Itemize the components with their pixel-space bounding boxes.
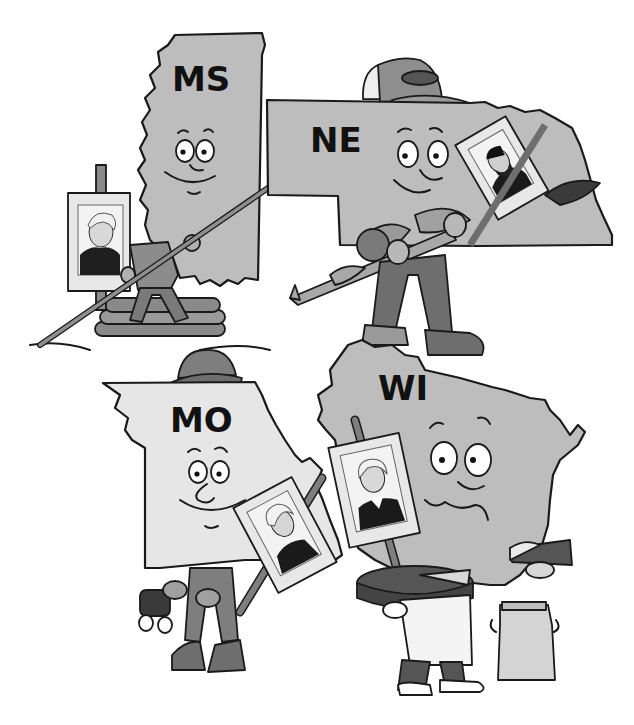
log-raft: [95, 298, 225, 336]
milk-can-icon: [491, 602, 559, 680]
wisconsin-body: [383, 595, 484, 695]
state-label-ms: MS: [172, 59, 230, 99]
states-cartoon-illustration: MS: [0, 0, 634, 725]
state-label-mo: MO: [170, 400, 233, 440]
water-ripple-icon: [30, 343, 270, 350]
state-label-ne: NE: [310, 120, 362, 160]
missouri-body: [139, 568, 245, 672]
wisconsin-character: WI: [318, 340, 585, 695]
nebraska-character: NE: [267, 58, 612, 355]
portrait-jacket: [80, 247, 120, 275]
mississippi-character: MS: [30, 33, 270, 350]
state-label-wi: WI: [378, 368, 428, 408]
missouri-character: MO: [103, 350, 342, 672]
